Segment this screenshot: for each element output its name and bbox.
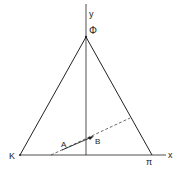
point-a-label: A [61, 140, 67, 149]
vertex-top-dot [85, 36, 87, 38]
arrow-segment [62, 137, 92, 150]
vertex-right-label: π [146, 157, 152, 167]
ternary-diagram: y x Φ K π A B [0, 0, 184, 172]
vertex-left-dot [19, 154, 21, 156]
x-axis-label: x [168, 150, 173, 160]
arrow-head-icon [88, 136, 94, 140]
y-axis-label: y [89, 9, 94, 19]
triangle-left-side [20, 37, 86, 155]
vertex-top-label: Φ [89, 25, 97, 36]
point-b-label: B [95, 137, 100, 146]
vertex-left-label: K [9, 151, 15, 161]
